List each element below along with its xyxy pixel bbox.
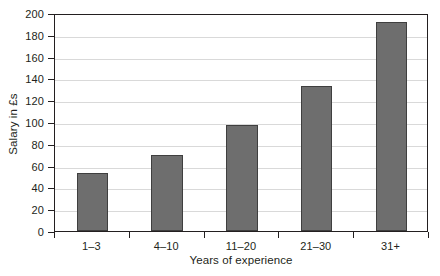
- x-axis-tick-label: 1–3: [82, 240, 101, 252]
- y-axis-tick-label: 140: [0, 73, 44, 85]
- y-axis-tick-label: 160: [0, 52, 44, 64]
- y-axis-tick-label: 200: [0, 8, 44, 20]
- bar: [151, 155, 182, 231]
- x-axis-tick: [129, 232, 130, 238]
- y-axis-tick-label: 40: [0, 182, 44, 194]
- x-axis-tick-label: 4–10: [154, 240, 179, 252]
- y-axis-tick-label: 120: [0, 95, 44, 107]
- x-axis-tick: [428, 232, 429, 238]
- gridline: [55, 59, 427, 60]
- x-axis-tick-label: 11–20: [226, 240, 256, 252]
- x-axis-tick-label: 21–30: [300, 240, 331, 252]
- bar: [77, 173, 108, 231]
- gridline: [55, 102, 427, 103]
- x-axis-tick-label: 31+: [381, 240, 400, 252]
- gridline: [55, 80, 427, 81]
- y-axis-tick-label: 180: [0, 30, 44, 42]
- x-axis-tick: [278, 232, 279, 238]
- y-axis-tick-label: 0: [0, 226, 44, 238]
- x-axis-title: Years of experience: [54, 254, 428, 266]
- x-axis-tick: [54, 232, 55, 238]
- x-axis-tick: [204, 232, 205, 238]
- bar: [301, 86, 332, 231]
- bar-chart-figure: Salary in £s 020406080100120140160180200…: [0, 0, 440, 276]
- gridline: [55, 37, 427, 38]
- y-axis-tick-label: 80: [0, 139, 44, 151]
- y-axis-tick-label: 100: [0, 117, 44, 129]
- bar: [376, 22, 407, 231]
- y-axis-tick-label: 60: [0, 161, 44, 173]
- x-axis-tick: [353, 232, 354, 238]
- y-axis-tick-label: 20: [0, 204, 44, 216]
- bar: [226, 125, 257, 231]
- plot-area: [54, 14, 428, 232]
